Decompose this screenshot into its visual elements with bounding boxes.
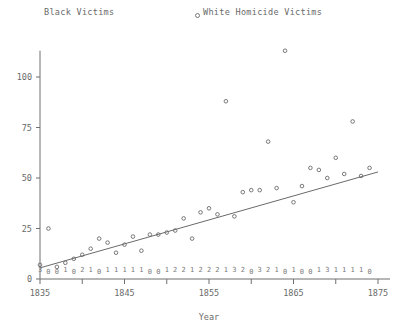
data-point: [131, 235, 135, 239]
black-victim-count-label: 0: [308, 268, 312, 276]
data-point: [199, 211, 203, 215]
data-point: [283, 49, 287, 53]
y-tick-labels: 0255075100: [17, 72, 32, 284]
black-victim-count-label: 1: [334, 266, 338, 274]
data-point: [224, 99, 228, 103]
data-point: [258, 188, 262, 192]
black-victim-count-label: 0: [148, 268, 152, 276]
data-points-white: [38, 49, 371, 269]
black-victim-count-label: 2: [182, 266, 186, 274]
data-point: [326, 176, 330, 180]
data-point: [114, 251, 118, 255]
black-victim-count-label: 1: [342, 266, 346, 274]
data-point: [275, 186, 279, 190]
black-victim-count-label: 0: [97, 268, 101, 276]
data-point: [266, 140, 270, 144]
black-victim-count-label: 2: [215, 266, 219, 274]
black-victim-count-label: 2: [241, 266, 245, 274]
black-victim-count-label: 1: [122, 266, 126, 274]
data-point: [241, 190, 245, 194]
data-point: [190, 237, 194, 241]
black-victim-count-label: 0: [55, 268, 59, 276]
linear-trend-line: [40, 172, 378, 268]
data-point: [148, 233, 152, 237]
chart-container: Black Victims White Homicide Victims 025…: [0, 0, 395, 328]
black-victim-count-label: 0: [46, 268, 50, 276]
black-victim-count-label: 1: [224, 266, 228, 274]
black-victim-count-label: 2: [80, 266, 84, 274]
data-point: [182, 217, 186, 221]
x-tick-label: 1865: [283, 288, 303, 298]
data-point: [64, 261, 68, 265]
data-point: [292, 200, 296, 204]
data-point: [334, 156, 338, 160]
black-victim-count-label: 1: [89, 266, 93, 274]
data-point: [89, 247, 93, 251]
black-victim-count-label: 3: [258, 266, 262, 274]
data-point: [207, 207, 211, 211]
data-point: [140, 249, 144, 253]
data-point: [342, 172, 346, 176]
black-victim-count-label: 0: [367, 268, 371, 276]
black-victim-count-label: 1: [190, 266, 194, 274]
black-victim-count-label: 0: [156, 268, 160, 276]
black-victim-count-label: 2: [207, 266, 211, 274]
y-tick-label: 100: [17, 72, 32, 82]
data-point: [97, 237, 101, 241]
black-victim-count-label: 3: [325, 266, 329, 274]
black-victim-count-label: 1: [359, 266, 363, 274]
data-point: [216, 213, 220, 217]
x-tick-labels: 18351845185518651875: [30, 288, 388, 298]
black-victim-count-label: 3: [232, 266, 236, 274]
black-victim-count-label: 2: [266, 266, 270, 274]
data-point: [249, 188, 253, 192]
black-victim-count-label: 1: [63, 266, 67, 274]
data-labels-black: 3001021011111001221222132032101001311110: [38, 266, 372, 277]
scatter-plot-canvas: 0255075100 18351845185518651875 30010210…: [0, 0, 395, 328]
y-tick-label: 50: [22, 173, 32, 183]
black-victim-count-label: 1: [114, 266, 118, 274]
y-tick-label: 0: [27, 274, 32, 284]
x-tick-label: 1855: [199, 288, 219, 298]
black-victim-count-label: 0: [72, 268, 76, 276]
y-tick-label: 75: [22, 123, 32, 133]
black-victim-count-label: 1: [131, 266, 135, 274]
data-point: [368, 166, 372, 170]
x-tick-label: 1875: [368, 288, 388, 298]
x-tick-label: 1845: [114, 288, 134, 298]
data-point: [47, 227, 51, 231]
x-tick-label: 1835: [30, 288, 50, 298]
y-tick-label: 25: [22, 224, 32, 234]
black-victim-count-label: 0: [300, 268, 304, 276]
black-victim-count-label: 1: [165, 266, 169, 274]
black-victim-count-label: 0: [283, 268, 287, 276]
black-victim-count-label: 1: [317, 266, 321, 274]
black-victim-count-label: 1: [139, 266, 143, 274]
trend-line: [40, 172, 378, 268]
data-point: [351, 120, 355, 124]
black-victim-count-label: 2: [198, 266, 202, 274]
data-point: [309, 166, 313, 170]
black-victim-count-label: 3: [38, 266, 42, 274]
black-victim-count-label: 1: [274, 266, 278, 274]
black-victim-count-label: 1: [105, 266, 109, 274]
black-victim-count-label: 0: [249, 268, 253, 276]
black-victim-count-label: 1: [291, 266, 295, 274]
data-point: [300, 184, 304, 188]
data-point: [233, 215, 237, 219]
data-point: [317, 168, 321, 172]
x-axis-title: Year: [199, 312, 219, 322]
black-victim-count-label: 2: [173, 266, 177, 274]
data-point: [106, 241, 110, 245]
black-victim-count-label: 1: [351, 266, 355, 274]
